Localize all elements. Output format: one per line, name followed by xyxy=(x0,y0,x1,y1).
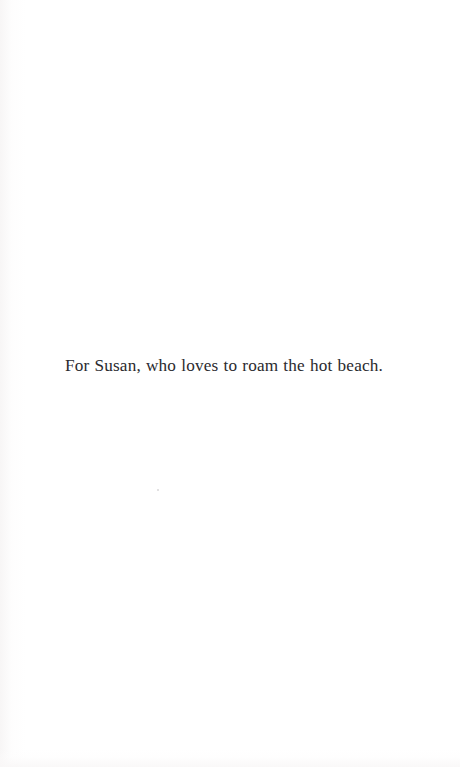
scanned-page: For Susan, who loves to roam the hot bea… xyxy=(0,0,460,767)
dedication-text: For Susan, who loves to roam the hot bea… xyxy=(65,355,383,377)
scan-bottom-edge-artifact xyxy=(0,749,460,767)
page-gutter-shading xyxy=(0,0,26,767)
dedication-block: For Susan, who loves to roam the hot bea… xyxy=(0,355,448,377)
scan-dust-speck xyxy=(157,489,159,491)
